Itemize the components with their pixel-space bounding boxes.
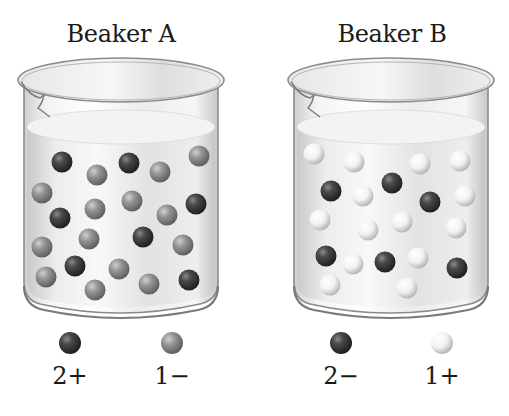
anion-1minus: [157, 205, 178, 226]
cation-2plus: [65, 256, 86, 277]
anion-1minus: [36, 267, 57, 288]
anion-2minus: [321, 181, 342, 202]
beaker-b-liquid-surface: [297, 110, 485, 144]
cation-2plus: [52, 152, 73, 173]
anion-2minus: [382, 173, 403, 194]
beaker-b-title: Beaker B: [292, 20, 492, 48]
cation-1plus: [408, 248, 429, 269]
cation-1plus: [320, 275, 341, 296]
cation-1plus: [446, 218, 467, 239]
beaker-b: [288, 58, 494, 318]
beaker-a-liquid-surface: [27, 110, 215, 144]
cation-1plus: [450, 151, 471, 172]
anion-1minus: [32, 183, 53, 204]
cation-1plus: [353, 186, 374, 207]
legend-a-dark-ball: [59, 332, 81, 354]
cation-2plus: [179, 270, 200, 291]
anion-2minus: [447, 258, 468, 279]
beaker-b-rim-outer: [288, 58, 494, 102]
anion-2minus: [375, 252, 396, 273]
cation-1plus: [392, 212, 413, 233]
cation-1plus: [410, 154, 431, 175]
legend-a-charge-medium: 1−: [142, 362, 202, 390]
cation-2plus: [133, 227, 154, 248]
anion-2minus: [316, 246, 337, 267]
anion-1minus: [87, 165, 108, 186]
legend-a-charge-dark: 2+: [40, 362, 100, 390]
cation-1plus: [304, 144, 325, 165]
anion-1minus: [189, 146, 210, 167]
anion-1minus: [109, 259, 130, 280]
diagram-canvas: [0, 0, 509, 416]
legend-b-white-ball: [431, 332, 453, 354]
cation-1plus: [358, 220, 379, 241]
legend-b-charge-dark: 2−: [311, 362, 371, 390]
cation-1plus: [455, 186, 476, 207]
anion-1minus: [139, 274, 160, 295]
anion-1minus: [122, 191, 143, 212]
cation-2plus: [186, 194, 207, 215]
cation-1plus: [397, 278, 418, 299]
anion-1minus: [150, 162, 171, 183]
anion-1minus: [32, 237, 53, 258]
beaker-a: [18, 58, 224, 318]
legend-a-medium-ball: [161, 332, 183, 354]
cation-2plus: [50, 208, 71, 229]
anion-1minus: [85, 280, 106, 301]
anion-1minus: [79, 229, 100, 250]
cation-1plus: [310, 210, 331, 231]
cation-1plus: [343, 254, 364, 275]
cation-2plus: [119, 153, 140, 174]
beaker-a-rim-outer: [18, 58, 224, 102]
legend-b-charge-white: 1+: [412, 362, 472, 390]
anion-1minus: [173, 235, 194, 256]
legend-b-dark-ball: [330, 332, 352, 354]
beaker-a-title: Beaker A: [21, 20, 221, 48]
cation-1plus: [344, 152, 365, 173]
anion-2minus: [420, 192, 441, 213]
anion-1minus: [85, 199, 106, 220]
